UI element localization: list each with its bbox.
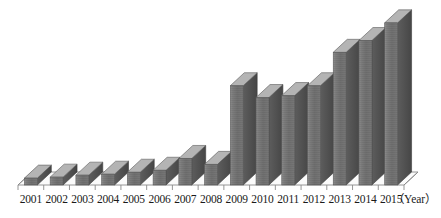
- x-axis-tick-label-2008: 2008: [200, 192, 222, 206]
- bar-texture: [308, 86, 321, 185]
- bar-texture: [127, 172, 140, 185]
- bar-texture: [256, 98, 269, 185]
- x-axis-unit-label: （Year）: [393, 192, 436, 206]
- bar-2012: [308, 73, 335, 185]
- bar-series: [24, 10, 411, 185]
- x-axis-tick-label-2002: 2002: [45, 192, 67, 206]
- x-axis-tick-label-2009: 2009: [226, 192, 248, 206]
- bar-texture: [230, 86, 243, 185]
- x-axis-tick-label-2001: 2001: [20, 192, 42, 206]
- bar-side-face: [295, 83, 309, 185]
- bar-chart: 2001200220032004200520062007200820092010…: [0, 0, 441, 218]
- bar-texture: [102, 174, 115, 185]
- bar-texture: [76, 175, 89, 185]
- bar-side-face: [346, 39, 360, 185]
- x-axis-tick-label-2010: 2010: [251, 192, 273, 206]
- bar-side-face: [398, 10, 412, 185]
- bar-2013: [333, 39, 360, 185]
- bar-2014: [359, 28, 386, 185]
- bar-texture: [385, 23, 398, 185]
- x-axis-tick-label-2003: 2003: [71, 192, 93, 206]
- x-axis-tick-label-2013: 2013: [329, 192, 351, 206]
- bar-texture: [24, 178, 37, 185]
- bar-side-face: [243, 73, 257, 185]
- chart-plot-area: [0, 0, 441, 218]
- x-axis-ticks: [18, 185, 404, 190]
- bar-side-face: [269, 85, 283, 185]
- bar-texture: [153, 170, 166, 185]
- x-axis-tick-label-2007: 2007: [174, 192, 196, 206]
- x-axis-tick-label-2004: 2004: [97, 192, 119, 206]
- x-axis-tick-label-2005: 2005: [123, 192, 145, 206]
- x-axis-tick-label-2014: 2014: [354, 192, 376, 206]
- bar-texture: [50, 177, 63, 185]
- bar-texture: [359, 41, 372, 185]
- x-axis-tick-label-2011: 2011: [277, 192, 299, 206]
- bar-texture: [333, 52, 346, 185]
- bar-2010: [256, 85, 283, 185]
- x-axis-tick-label-2012: 2012: [303, 192, 325, 206]
- x-axis-tick-labels: 2001200220032004200520062007200820092010…: [0, 192, 441, 212]
- bar-side-face: [372, 28, 386, 185]
- bar-texture: [205, 164, 218, 185]
- bar-2011: [282, 83, 309, 185]
- bar-2015: [385, 10, 412, 185]
- bar-2009: [230, 73, 257, 185]
- bar-texture: [179, 158, 192, 185]
- x-axis-tick-label-2006: 2006: [148, 192, 170, 206]
- bar-side-face: [320, 73, 334, 185]
- bar-texture: [282, 96, 295, 185]
